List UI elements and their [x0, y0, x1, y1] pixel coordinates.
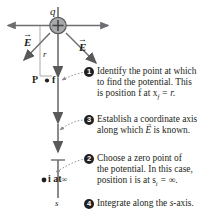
step-4-text: Integrate along the s-axis. [97, 198, 194, 209]
step-1-text: Identify the point at which to find the … [97, 66, 196, 102]
step-4: 4 Integrate along the s-axis. [84, 198, 216, 209]
step-4-line-1: Integrate along the s-axis. [97, 198, 194, 208]
leader-step-1 [62, 72, 86, 80]
point-i-label: i at∞ [48, 174, 67, 184]
step-1-tail: = r. [159, 88, 175, 98]
axis-label-s: s [55, 199, 59, 208]
step-1-badge: 1 [84, 67, 94, 77]
point-f-label: f [52, 75, 55, 85]
step-3-text: Establish a coordinate axis along which … [97, 114, 197, 136]
step-2-badge: 2 [84, 154, 94, 164]
distance-label-r: r [43, 50, 47, 59]
point-i-dot [42, 178, 47, 183]
point-p-label: P [32, 75, 38, 85]
leader-step-2 [56, 159, 86, 172]
step-2: 2 Choose a zero point of the potential. … [84, 153, 214, 189]
figure-canvas: q r → E → E P f i at∞ s 1 Identify the p… [0, 0, 216, 217]
point-f-dot [45, 78, 49, 82]
field-label-left: → E [24, 37, 31, 48]
leader-step-3 [60, 120, 86, 130]
step-2-tail: = ∞. [158, 175, 178, 185]
step-2-text: Choose a zero point of the potential. In… [97, 153, 193, 189]
step-1: 1 Identify the point at which to find th… [84, 66, 214, 102]
charge-label: q [50, 6, 56, 17]
infinity-symbol: ∞ [62, 175, 68, 184]
step-3: 3 Establish a coordinate axis along whic… [84, 114, 214, 136]
point-charge-symbol [50, 17, 66, 33]
step-3-line-2: along which E→ is known. [97, 125, 190, 135]
field-label-right: → E [79, 42, 86, 53]
step-4-badge: 4 [84, 199, 94, 209]
step-3-badge: 3 [84, 115, 94, 125]
